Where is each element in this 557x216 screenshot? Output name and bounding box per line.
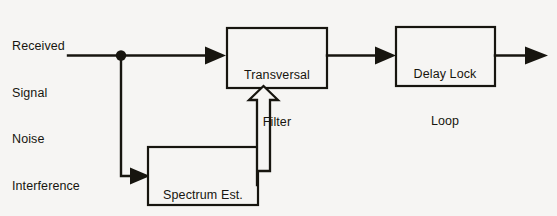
input-label-line-3: Noise — [12, 132, 80, 148]
input-label-line-4: Interference — [12, 179, 80, 195]
transversal-filter-label: Transversal Filter — [212, 37, 342, 161]
spectrum-estimator-label-line-1: Spectrum Est. — [138, 188, 268, 204]
delay-lock-loop-label: Delay Lock Loop — [380, 36, 510, 160]
delay-lock-loop-label-line-1: Delay Lock — [380, 67, 510, 83]
delay-lock-loop-label-line-2: Loop — [380, 114, 510, 130]
transversal-filter-label-line-1: Transversal — [212, 68, 342, 84]
spectrum-estimator-label: Spectrum Est. DFT — [138, 157, 268, 216]
arrowhead-output — [525, 47, 548, 65]
input-label-line-2: Signal — [12, 86, 80, 102]
input-signal-label: Received Signal Noise Interference — [12, 8, 80, 216]
transversal-filter-label-line-2: Filter — [212, 115, 342, 131]
block-diagram-figure: Received Signal Noise Interference Trans… — [0, 0, 557, 216]
input-label-line-1: Received — [12, 39, 80, 55]
